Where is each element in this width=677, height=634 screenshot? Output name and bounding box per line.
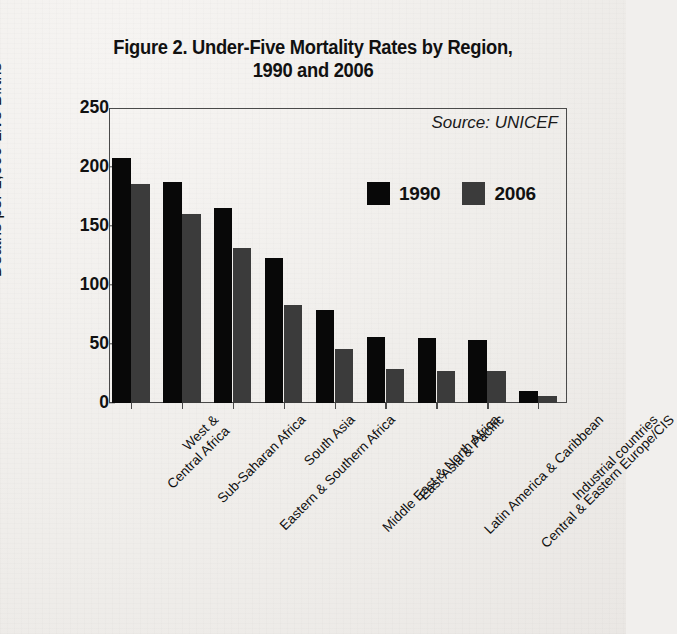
x-label-line-1: Central & Eastern Europe/CIS <box>538 412 677 551</box>
legend-label: 2006 <box>494 183 535 205</box>
x-tick-mark <box>487 403 488 409</box>
x-axis-category-label: East Asia & Pacific <box>417 412 508 503</box>
x-tick-mark <box>182 403 183 409</box>
chart-legend: 19902006 <box>367 182 536 205</box>
legend-entry: 2006 <box>462 182 535 205</box>
x-tick-mark <box>385 403 386 409</box>
x-tick-mark <box>284 403 285 409</box>
x-label-line-1: Sub-Saharan Africa <box>214 412 308 506</box>
x-label-line-1: East Asia & Pacific <box>417 412 508 503</box>
x-axis-category-label: Sub-Saharan Africa <box>214 412 308 506</box>
legend-entry: 1990 <box>367 182 440 205</box>
x-tick-mark <box>436 403 437 409</box>
legend-swatch <box>462 182 485 205</box>
x-tick-mark <box>335 403 336 409</box>
legend-label: 1990 <box>399 183 440 205</box>
x-tick-mark <box>538 403 539 409</box>
x-tick-mark <box>131 403 132 409</box>
x-axis-category-label: Central & Eastern Europe/CIS <box>538 412 677 551</box>
x-tick-mark <box>233 403 234 409</box>
x-axis-category-label: West &Central Africa <box>153 412 233 492</box>
legend-swatch <box>367 182 390 205</box>
